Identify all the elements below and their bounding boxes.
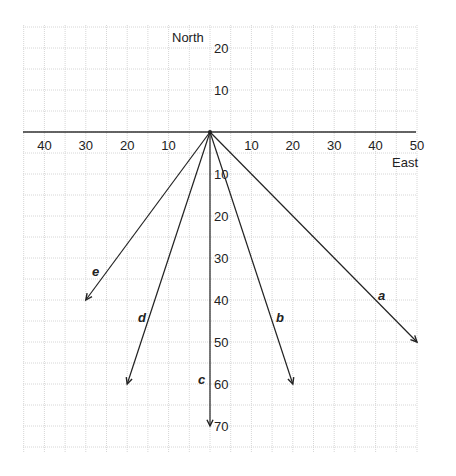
vector-label-b: b	[276, 310, 284, 325]
y-tick-label: 10	[214, 167, 228, 182]
x-tick-label: 40	[37, 138, 51, 153]
y-tick-label: 30	[214, 251, 228, 266]
x-tick-label: 40	[368, 138, 382, 153]
y-tick-label: 10	[214, 83, 228, 98]
vector-label-a: a	[378, 288, 385, 303]
vector-diagram: NorthEast4030201010203040502010102030405…	[0, 0, 456, 476]
east-label: East	[392, 155, 418, 170]
x-tick-label: 20	[120, 138, 134, 153]
x-tick-label: 10	[161, 138, 175, 153]
y-tick-label: 70	[214, 419, 228, 434]
vector-label-e: e	[92, 264, 99, 279]
x-tick-label: 10	[244, 138, 258, 153]
x-tick-label: 30	[327, 138, 341, 153]
y-tick-label: 60	[214, 377, 228, 392]
vector-label-c: c	[198, 372, 206, 387]
y-tick-label: 50	[214, 335, 228, 350]
x-tick-label: 50	[410, 138, 424, 153]
y-tick-label: 20	[214, 41, 228, 56]
y-tick-label: 40	[214, 293, 228, 308]
y-tick-label: 20	[214, 209, 228, 224]
x-tick-label: 20	[286, 138, 300, 153]
vector-label-d: d	[138, 310, 147, 325]
origin-point	[208, 130, 212, 134]
x-tick-label: 30	[79, 138, 93, 153]
north-label: North	[172, 30, 204, 45]
